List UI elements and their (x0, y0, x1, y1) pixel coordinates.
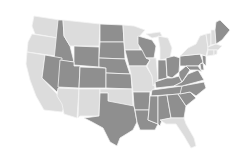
state-WY[interactable] (74, 46, 99, 67)
state-NM[interactable] (78, 89, 100, 118)
state-AR[interactable] (133, 92, 150, 110)
state-NY[interactable] (180, 34, 208, 56)
state-CT[interactable] (207, 50, 214, 56)
state-CO[interactable] (79, 67, 106, 88)
us-map (0, 0, 247, 162)
state-SD[interactable] (99, 42, 125, 59)
state-MT[interactable] (63, 20, 100, 46)
state-DE[interactable] (200, 63, 204, 70)
state-ME[interactable] (215, 20, 230, 44)
state-ND[interactable] (100, 24, 124, 42)
state-KS[interactable] (106, 73, 132, 89)
state-OH[interactable] (166, 56, 180, 78)
state-IN[interactable] (158, 60, 167, 80)
state-RI[interactable] (214, 50, 217, 55)
state-FL[interactable] (160, 118, 196, 148)
state-MS[interactable] (148, 96, 158, 124)
